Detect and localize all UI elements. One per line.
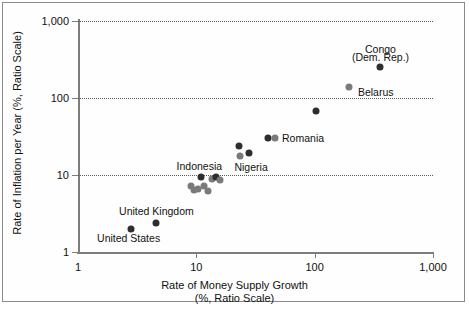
point-label-indonesia: Indonesia	[177, 160, 223, 172]
data-point-indonesia	[198, 174, 205, 181]
data-point	[246, 149, 253, 156]
y-tick	[72, 252, 78, 253]
data-point-congo-dem-rep	[377, 64, 384, 71]
data-point	[271, 135, 278, 142]
data-point	[237, 153, 244, 160]
x-tick-label: 10	[190, 261, 202, 273]
point-label-belarus: Belarus	[358, 86, 394, 98]
data-point-united-kingdom	[153, 219, 160, 226]
y-tick-label: 100	[51, 92, 69, 104]
plot-area: 1101001,0001101001,000Congo(Dem. Rep.)Be…	[78, 21, 433, 252]
y-tick-label: 1	[63, 246, 69, 258]
y-axis-title: Rate of Inflation per Year (%, Ratio Sca…	[9, 22, 25, 244]
y-tick-label: 10	[57, 169, 69, 181]
data-point-romania	[264, 135, 271, 142]
x-axis-line	[77, 252, 434, 254]
x-tick-label: 100	[305, 261, 323, 273]
x-axis-title-line1: Rate of Money Supply Growth	[0, 279, 469, 292]
y-tick	[72, 98, 78, 99]
x-tick	[196, 252, 197, 258]
data-point	[217, 177, 224, 184]
x-axis-title-line2: (%, Ratio Scale)	[0, 292, 469, 305]
point-label-united-states: United States	[97, 232, 160, 244]
x-tick-label: 1	[75, 261, 81, 273]
point-label-romania: Romania	[282, 132, 324, 144]
gridline-y	[78, 21, 433, 22]
y-tick	[72, 21, 78, 22]
y-axis-title-text: Rate of Inflation per Year (%, Ratio Sca…	[11, 31, 23, 235]
x-tick	[433, 252, 434, 258]
data-point-belarus	[346, 83, 353, 90]
x-tick	[315, 252, 316, 258]
point-label-united-kingdom: United Kingdom	[119, 205, 194, 217]
data-point-nigeria	[236, 142, 243, 149]
data-point	[205, 187, 212, 194]
y-tick-label: 1,000	[41, 15, 69, 27]
data-point	[313, 107, 320, 114]
point-label-dem-rep: (Dem. Rep.)	[352, 51, 409, 63]
x-axis-title: Rate of Money Supply Growth (%, Ratio Sc…	[0, 279, 469, 305]
point-label-nigeria: Nigeria	[234, 161, 267, 173]
y-tick	[72, 175, 78, 176]
chart-figure: Rate of Inflation per Year (%, Ratio Sca…	[0, 0, 469, 320]
gridline-y	[78, 175, 433, 176]
x-tick-label: 1,000	[419, 261, 447, 273]
